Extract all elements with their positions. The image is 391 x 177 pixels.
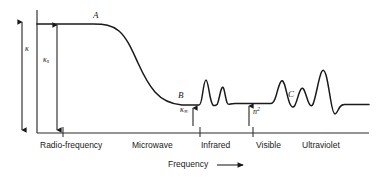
x-region-label-infrared: Infrared <box>201 141 230 150</box>
axes-group <box>37 10 369 133</box>
dielectric-frequency-chart <box>0 0 391 177</box>
kappa-infinity-label: κ∞ <box>180 106 188 114</box>
curve-label-b: B <box>178 91 184 100</box>
data-curve-group <box>37 24 369 114</box>
x-region-label-visible: Visible <box>256 141 281 150</box>
figure-container: A B C κ κs κ∞ n2 Radio-frequency Microwa… <box>0 0 391 177</box>
dielectric-response-curve <box>37 24 369 114</box>
n-squared-label: n2 <box>253 106 260 116</box>
kappa-s-subscript: s <box>47 58 49 64</box>
kappa-label: κ <box>25 45 29 53</box>
n-squared-exponent: 2 <box>257 106 260 112</box>
x-region-label-radio-frequency: Radio-frequency <box>40 141 102 150</box>
x-axis-ticks <box>63 127 253 137</box>
curve-label-c: C <box>288 90 294 99</box>
x-region-label-microwave: Microwave <box>132 141 173 150</box>
kappa-inf-subscript: ∞ <box>184 108 188 114</box>
kappa-s-label: κs <box>43 56 49 64</box>
x-region-label-ultraviolet: Ultraviolet <box>302 141 340 150</box>
x-axis-title: Frequency <box>168 160 208 169</box>
curve-label-a: A <box>93 11 99 20</box>
